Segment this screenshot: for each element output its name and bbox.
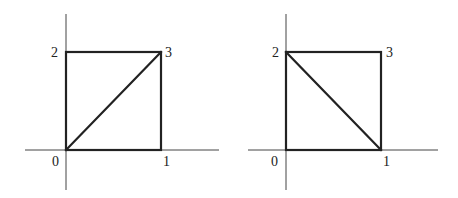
right-label-0: 0 (271, 154, 278, 169)
left-square-diagram: 2 3 0 1 (25, 14, 219, 190)
left-label-2: 2 (51, 45, 58, 60)
left-diagonal (66, 52, 161, 150)
right-diagonal (286, 52, 381, 150)
right-label-1: 1 (383, 154, 390, 169)
left-label-0: 0 (52, 154, 59, 169)
left-label-1: 1 (163, 154, 170, 169)
right-label-2: 2 (272, 45, 279, 60)
left-label-3: 3 (165, 45, 172, 60)
diagram-canvas: 2 3 0 1 2 3 0 1 (0, 0, 458, 198)
right-label-3: 3 (386, 45, 393, 60)
right-square-diagram: 2 3 0 1 (248, 14, 438, 190)
